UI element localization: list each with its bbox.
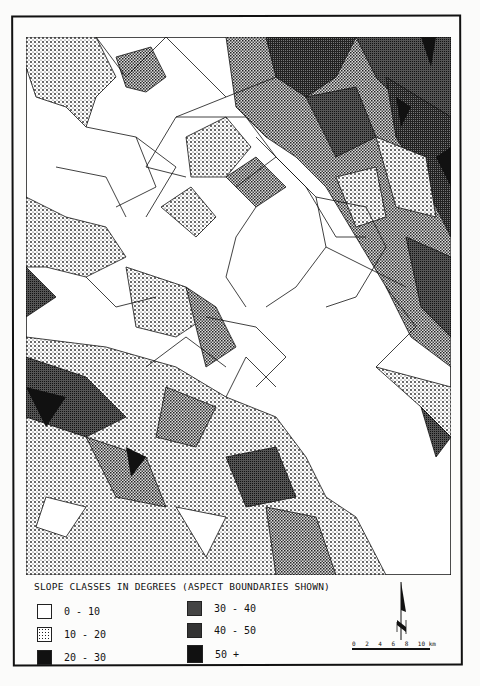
legend-item-10-20: 10 - 20 xyxy=(37,627,106,642)
legend-title: SLOPE CLASSES IN DEGREES xyxy=(34,581,176,592)
scale-line xyxy=(352,648,430,650)
legend-label: 10 - 20 xyxy=(64,629,106,640)
scale-bar: 0 2 4 6 8 10 km xyxy=(352,640,442,650)
tin-triangles xyxy=(26,37,451,575)
swatch-medium-dots xyxy=(37,650,52,665)
legend-label: 0 - 10 xyxy=(64,606,100,617)
legend-item-30-40: 30 - 40 xyxy=(187,601,256,616)
swatch-blank xyxy=(37,604,52,619)
legend-item-20-30: 20 - 30 xyxy=(37,650,106,665)
north-arrow-icon xyxy=(395,580,415,646)
legend-label: 50 + xyxy=(215,649,239,660)
swatch-solid-black xyxy=(187,645,203,663)
legend-label: 30 - 40 xyxy=(214,603,256,614)
swatch-dark-crosshatch xyxy=(187,623,202,638)
legend-item-40-50: 40 - 50 xyxy=(187,623,256,638)
swatch-light-dots xyxy=(37,627,52,642)
slope-map xyxy=(26,37,451,575)
swatch-dense-dots xyxy=(187,601,202,616)
legend-item-50-plus: 50 + xyxy=(187,645,239,663)
legend-subtitle: (ASPECT BOUNDARIES SHOWN) xyxy=(182,581,330,592)
legend-label: 20 - 30 xyxy=(64,652,106,663)
scale-ticks: 0 2 4 6 8 10 km xyxy=(352,640,436,647)
legend-item-0-10: 0 - 10 xyxy=(37,604,100,619)
legend-label: 40 - 50 xyxy=(214,625,256,636)
